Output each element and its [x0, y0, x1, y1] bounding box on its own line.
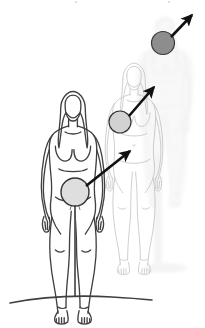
marker-pelvis[interactable]	[61, 178, 89, 206]
scan-speck	[168, 1, 170, 3]
scan-speck	[75, 1, 77, 3]
marker-head[interactable]	[152, 32, 175, 55]
figure-svg	[0, 0, 205, 328]
illustration-canvas: Three-stage upward progression of a foca…	[0, 0, 205, 328]
marker-chest[interactable]	[109, 111, 131, 133]
